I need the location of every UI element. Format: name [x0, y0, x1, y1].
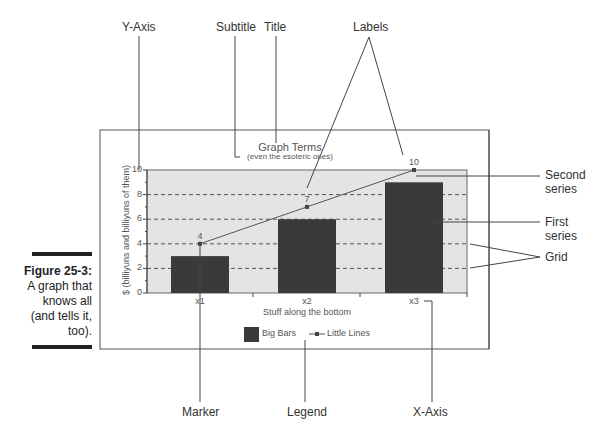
line-data-label: 10 — [406, 157, 422, 167]
callout-subtitle: Subtitle — [216, 20, 256, 34]
chart-subtitle: (even the esoteric ones) — [228, 152, 352, 161]
x-tick-label: x2 — [297, 296, 317, 306]
callout-title: Title — [264, 20, 286, 34]
legend-marker-swatch — [315, 332, 319, 336]
marker-point — [412, 168, 416, 172]
legend-label-bars: Big Bars — [262, 328, 296, 338]
x-axis-title: Stuff along the bottom — [240, 307, 374, 317]
legend-label-lines: Little Lines — [327, 328, 370, 338]
callout-marker: Marker — [182, 405, 219, 419]
callout-second-series: Second series — [545, 168, 586, 196]
line-data-label: 4 — [194, 231, 206, 241]
callout-x-axis: X-Axis — [413, 405, 448, 419]
bar-x2 — [278, 219, 336, 293]
legend-bar-swatch — [244, 327, 259, 342]
x-tick-label: x3 — [404, 296, 424, 306]
line-data-label: 7 — [301, 194, 313, 204]
chart-diagram — [0, 0, 610, 435]
callout-legend: Legend — [287, 405, 327, 419]
x-tick-label: x1 — [190, 296, 210, 306]
callout-second-series-line1: Second — [545, 168, 586, 182]
callout-second-series-line2: series — [545, 182, 586, 196]
marker-point — [305, 205, 309, 209]
callout-first-series-line1: First — [545, 215, 577, 229]
callout-first-series: First series — [545, 215, 577, 243]
callout-first-series-line2: series — [545, 229, 577, 243]
callout-labels: Labels — [353, 20, 388, 34]
callout-y-axis: Y-Axis — [122, 20, 156, 34]
bar-x3 — [385, 182, 443, 293]
callout-grid: Grid — [545, 250, 568, 264]
y-axis-title: $ (billiyuns and billiyuns of them) — [121, 160, 131, 300]
